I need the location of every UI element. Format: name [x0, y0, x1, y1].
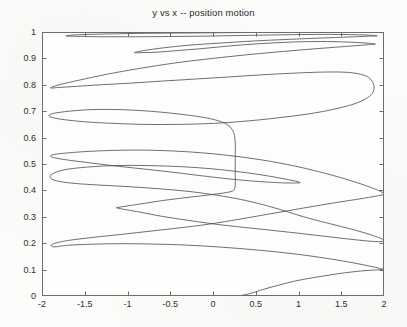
y-tick-label: 0.3: [0, 212, 36, 222]
y-tick-label: 0.9: [0, 53, 36, 63]
chart-title: y vs x -- position motion: [0, 7, 407, 18]
y-tick-label: 0.6: [0, 133, 36, 143]
y-tick-label: 0.7: [0, 106, 36, 116]
y-tick-label: 1: [0, 27, 36, 37]
x-tick-label: 1: [296, 299, 301, 309]
x-tick-label: -1: [123, 299, 131, 309]
plot-canvas: [42, 32, 384, 296]
chart-page: y vs x -- position motion 00.10.20.30.40…: [0, 0, 407, 327]
x-tick-label: -2: [38, 299, 46, 309]
x-tick-label: 1.5: [335, 299, 348, 309]
y-tick-label: 0.4: [0, 185, 36, 195]
x-tick-label: 0.5: [249, 299, 262, 309]
x-tick-label: -0.5: [162, 299, 178, 309]
plot-area: [42, 32, 384, 296]
y-tick-label: 0.1: [0, 265, 36, 275]
y-tick-label: 0: [0, 291, 36, 301]
y-tick-label: 0.5: [0, 159, 36, 169]
x-tick-label: 2: [381, 299, 386, 309]
y-tick-label: 0.2: [0, 238, 36, 248]
x-tick-label: -1.5: [77, 299, 93, 309]
x-tick-label: 0: [210, 299, 215, 309]
y-tick-label: 0.8: [0, 80, 36, 90]
